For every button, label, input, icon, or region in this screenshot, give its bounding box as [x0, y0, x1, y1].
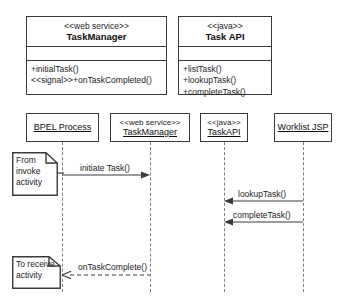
note-to-receive-activity: To receive activity [12, 256, 61, 289]
class-operation: +completeTask() [183, 87, 267, 98]
note-line: activity [16, 177, 55, 188]
lifeline-head-taskapi[interactable]: <<java>> TaskAPI [200, 113, 248, 142]
class-attributes-compartment [27, 47, 166, 61]
class-operation: +lookupTask() [183, 75, 267, 86]
message-arrow-complete-task [224, 217, 306, 227]
note-text: From invoke activity [16, 155, 55, 188]
lifeline-stereotype: <<java>> [207, 118, 240, 127]
note-line: invoke [16, 166, 55, 177]
class-header-taskmanager: <<web service>> TaskManager [27, 17, 166, 47]
class-operation: +listTask() [183, 64, 267, 75]
class-operations-compartment: +listTask() +lookupTask() +completeTask(… [179, 61, 271, 102]
class-stereotype: <<java>> [181, 21, 269, 31]
note-text: To receive activity [16, 259, 58, 281]
uml-diagram-canvas: <<web service>> TaskManager +initialTask… [0, 0, 342, 302]
lifeline-name: Worklist JSP [278, 122, 329, 132]
class-name: TaskManager [29, 31, 164, 42]
note-line: To receive [16, 259, 58, 270]
lifeline-head-worklist-jsp[interactable]: Worklist JSP [274, 113, 332, 142]
message-arrow-initiate-task [62, 170, 152, 180]
note-line: From [16, 155, 55, 166]
class-box-task-api[interactable]: <<java>> Task API +listTask() +lookupTas… [178, 16, 272, 95]
class-header-task-api: <<java>> Task API [179, 17, 271, 47]
lifeline-head-taskmanager[interactable]: <<web service>> TaskManager [110, 113, 190, 142]
lifeline-stereotype: <<web service>> [120, 118, 181, 127]
message-arrow-on-task-complete [62, 270, 152, 280]
class-name: Task API [181, 31, 269, 42]
lifeline-name: TaskManager [123, 127, 177, 137]
class-stereotype: <<web service>> [29, 21, 164, 31]
note-line: activity [16, 270, 58, 281]
class-operation: +initialTask() [31, 64, 162, 75]
note-from-invoke-activity: From invoke activity [12, 152, 58, 196]
lifeline-name: BPEL Process [34, 122, 92, 132]
class-attributes-compartment [179, 47, 271, 61]
message-arrow-lookup-task [224, 196, 306, 206]
lifeline-head-bpel-process[interactable]: BPEL Process [26, 113, 99, 142]
lifeline-name: TaskAPI [207, 127, 240, 137]
class-operations-compartment: +initialTask() <<signal>>+onTaskComplete… [27, 61, 166, 90]
class-operation: <<signal>>+onTaskCompleted() [31, 75, 162, 86]
class-box-taskmanager[interactable]: <<web service>> TaskManager +initialTask… [26, 16, 167, 95]
